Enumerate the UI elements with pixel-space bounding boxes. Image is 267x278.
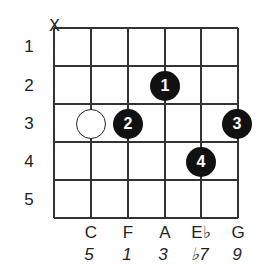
open-circle-marker [76, 109, 106, 139]
interval-label-string-6: 9 [222, 245, 252, 265]
fret-number-1: 1 [19, 37, 39, 57]
note-label-string-6: G [223, 223, 253, 243]
fret-number-2: 2 [19, 76, 39, 96]
note-label-string-2: C [76, 223, 106, 243]
note-label-string-3: F [113, 223, 143, 243]
interval-label-string-5: ♭7 [185, 245, 215, 265]
fret-number-3: 3 [19, 114, 39, 134]
note-label-string-5: E♭ [186, 223, 216, 243]
finger-dot-2: 2 [113, 109, 143, 139]
interval-label-string-4: 3 [148, 245, 178, 265]
note-label-string-4: A [150, 223, 180, 243]
finger-dot-1: 1 [150, 71, 180, 101]
interval-label-string-2: 5 [74, 245, 104, 265]
muted-string-x-icon: X [49, 19, 63, 33]
interval-label-string-3: 1 [112, 245, 142, 265]
fret-number-5: 5 [19, 190, 39, 210]
finger-dot-3: 3 [222, 109, 252, 139]
finger-dot-4: 4 [186, 147, 216, 177]
chord-diagram: X 1 2 3 4 5 1 2 3 4 C F A E♭ G 5 1 3 ♭7 … [0, 0, 267, 278]
fret-number-4: 4 [19, 152, 39, 172]
